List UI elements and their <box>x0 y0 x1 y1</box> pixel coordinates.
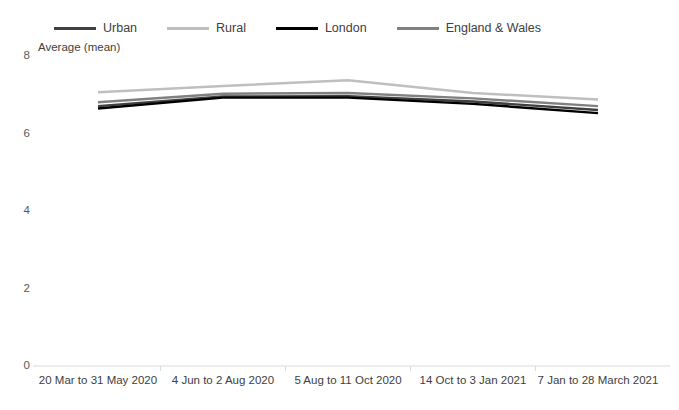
series-lines <box>98 80 598 113</box>
plot-area <box>0 0 679 410</box>
x-axis-tick-marks <box>161 366 536 371</box>
line-chart: UrbanRuralLondonEngland & Wales Average … <box>0 0 679 410</box>
